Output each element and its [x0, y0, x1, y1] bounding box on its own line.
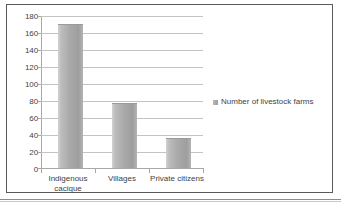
- y-tick-label-0: 0: [12, 166, 38, 174]
- x-tick-mark-3: [203, 169, 204, 173]
- bar-private-citizens[interactable]: [166, 138, 191, 168]
- x-axis-line: [41, 168, 204, 169]
- bar-villages[interactable]: [112, 103, 137, 168]
- legend[interactable]: Number of livestock farms: [213, 98, 313, 106]
- y-tick-label-100: 100: [12, 81, 38, 89]
- plot-area: [41, 16, 203, 168]
- x-tick-mark-1: [95, 169, 96, 173]
- y-tick-label-20: 20: [12, 149, 38, 157]
- y-tick-label-40: 40: [12, 132, 38, 140]
- x-category-label-line1: Indigenous: [41, 174, 95, 184]
- y-tick-label-60: 60: [12, 115, 38, 123]
- bar-indigenous-cacique[interactable]: [58, 24, 83, 168]
- y-tick-label-120: 120: [12, 64, 38, 72]
- y-tick-label-180: 180: [12, 13, 38, 21]
- x-tick-mark-2: [149, 169, 150, 173]
- page-bottom-rule: [0, 199, 341, 200]
- gridline-180: [41, 16, 203, 17]
- legend-square-marker-icon: [213, 100, 218, 105]
- y-axis-labels: 180 160 140 120 100 80 60 40 20 0: [10, 0, 38, 206]
- x-category-label-line2: cacique: [41, 184, 95, 194]
- x-category-label-indigenous-cacique: Indigenous cacique: [41, 174, 95, 193]
- legend-entry-label: Number of livestock farms: [221, 98, 313, 106]
- x-tick-mark-0: [41, 169, 42, 173]
- x-category-label-private-citizens: Private citizens: [149, 174, 205, 184]
- y-tick-label-80: 80: [12, 98, 38, 106]
- y-tick-label-140: 140: [12, 47, 38, 55]
- y-tick-label-160: 160: [12, 30, 38, 38]
- x-category-label-villages: Villages: [95, 174, 149, 184]
- page-bottom-rule-secondary: [0, 201, 341, 202]
